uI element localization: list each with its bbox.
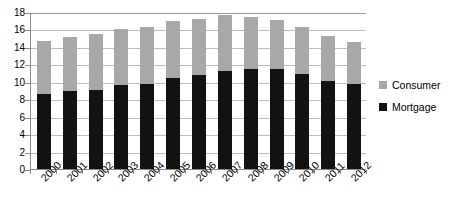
y-axis-tick-label: 18	[3, 8, 25, 18]
y-axis-tick-label: 6	[3, 113, 25, 123]
legend-item: Consumer	[379, 79, 451, 91]
legend-swatch-icon	[379, 103, 387, 111]
bar-group	[321, 12, 335, 169]
x-axis-tick-mark	[56, 170, 57, 174]
y-axis-tick-label: 4	[3, 130, 25, 140]
x-axis-tick-mark	[288, 170, 289, 174]
x-axis-tick-mark	[237, 170, 238, 174]
bar-group	[63, 12, 77, 169]
x-axis-tick-mark	[185, 170, 186, 174]
bar-segment-mortgage	[321, 81, 335, 169]
x-axis-tick-mark	[340, 170, 341, 174]
bar-segment-mortgage	[114, 85, 128, 169]
stacked-bar-chart: 024681012141618 200020012002200320042005…	[0, 0, 451, 214]
bar-segment-mortgage	[166, 78, 180, 169]
bar-segment-mortgage	[89, 90, 103, 169]
bar-segment-consumer	[244, 17, 258, 68]
legend-swatch-icon	[379, 81, 387, 89]
y-axis-tick-label: 14	[3, 43, 25, 53]
bar-group	[89, 12, 103, 169]
bar-segment-consumer	[37, 41, 51, 94]
bar-segment-mortgage	[244, 69, 258, 169]
legend-item: Mortgage	[379, 101, 451, 113]
bar-segment-mortgage	[37, 94, 51, 169]
bar-group	[192, 12, 206, 169]
plot-area	[30, 13, 366, 170]
bar-segment-mortgage	[347, 84, 361, 169]
bar-segment-consumer	[140, 27, 154, 84]
bar-group	[37, 12, 51, 169]
x-axis-tick-mark	[314, 170, 315, 174]
y-axis-tick-label: 10	[3, 78, 25, 88]
bar-group	[244, 12, 258, 169]
x-axis-tick-mark	[159, 170, 160, 174]
bar-segment-mortgage	[218, 71, 232, 169]
x-axis-tick-mark	[263, 170, 264, 174]
bar-segment-mortgage	[140, 84, 154, 169]
bar-group	[166, 12, 180, 169]
chart-legend: ConsumerMortgage	[379, 79, 451, 123]
bar-group	[347, 12, 361, 169]
x-axis-tick-mark	[211, 170, 212, 174]
bar-segment-mortgage	[270, 69, 284, 169]
bar-group	[295, 12, 309, 169]
x-axis-tick-mark	[108, 170, 109, 174]
y-axis-tick-label: 0	[3, 165, 25, 175]
bar-segment-mortgage	[63, 91, 77, 169]
bar-segment-consumer	[114, 29, 128, 85]
y-axis-tick-label: 2	[3, 148, 25, 158]
bar-segment-consumer	[192, 19, 206, 75]
bar-group	[114, 12, 128, 169]
bar-group	[140, 12, 154, 169]
x-axis-tick-mark	[30, 170, 31, 174]
bar-segment-consumer	[89, 34, 103, 90]
y-axis-tick-label: 16	[3, 25, 25, 35]
x-axis-tick-mark	[366, 170, 367, 174]
y-axis-tick-label: 8	[3, 95, 25, 105]
bar-group	[218, 12, 232, 169]
bar-segment-consumer	[295, 27, 309, 74]
bar-segment-consumer	[347, 42, 361, 85]
legend-item-label: Consumer	[392, 80, 440, 91]
bar-segment-consumer	[321, 36, 335, 80]
bar-segment-consumer	[63, 37, 77, 91]
x-axis-tick-mark	[133, 170, 134, 174]
bar-group	[270, 12, 284, 169]
bar-segment-consumer	[270, 20, 284, 69]
bar-segment-consumer	[218, 15, 232, 72]
x-axis-tick-mark	[82, 170, 83, 174]
bar-segment-mortgage	[295, 74, 309, 169]
bar-segment-consumer	[166, 21, 180, 79]
y-axis-tick-label: 12	[3, 60, 25, 70]
bar-segment-mortgage	[192, 75, 206, 169]
legend-item-label: Mortgage	[392, 102, 436, 113]
